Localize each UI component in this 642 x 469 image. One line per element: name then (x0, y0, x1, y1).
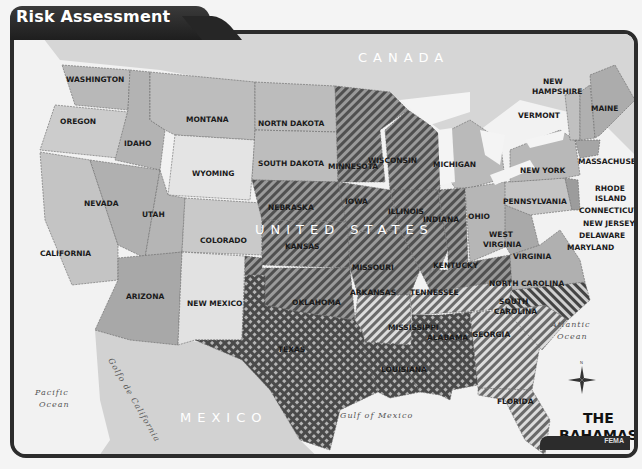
label-atlantic-2: Ocean (557, 332, 588, 341)
label-iowa: IOWA (345, 197, 368, 206)
label-south-carolina-2: CAROLINA (494, 307, 537, 316)
source-label: FEMA (604, 437, 624, 444)
label-connecticut: CONNECTICUT (579, 206, 638, 215)
label-nebraska: NEBRASKA (268, 203, 314, 212)
label-nevada: NEVADA (84, 199, 119, 208)
label-canada: CANADA (358, 50, 449, 65)
state-nebraska[interactable] (252, 180, 348, 222)
label-montana: MONTANA (186, 115, 229, 124)
label-kentucky: KENTUCKY (433, 261, 479, 270)
label-west-virginia-1: WEST (489, 230, 514, 239)
label-delaware: DELAWARE (579, 231, 625, 240)
label-gulf-of-mexico: Gulf of Mexico (340, 411, 413, 420)
label-atlantic-1: Atlantic (550, 320, 591, 329)
label-rhode-island-2: ISLAND (595, 194, 626, 203)
label-missouri: MISSOURI (352, 263, 394, 272)
label-vermont: VERMONT (518, 111, 561, 120)
label-michigan: MICHIGAN (433, 160, 476, 169)
label-new-jersey: NEW JERSEY (583, 219, 635, 228)
label-louisiana: LOUISIANA (381, 365, 427, 374)
label-georgia: GEORGIA (472, 330, 510, 339)
label-pennsylvania: PENNSYLVANIA (503, 197, 567, 206)
label-california: CALIFORNIA (40, 249, 91, 258)
label-virginia: VIRGINIA (513, 252, 551, 261)
label-north-dakota: NORTN DAKOTA (258, 119, 325, 128)
state-montana[interactable] (150, 72, 255, 140)
label-colorado: COLORADO (200, 236, 247, 245)
state-colorado[interactable] (182, 198, 262, 255)
label-north-carolina: NORTH CAROLINA (489, 279, 564, 288)
label-maryland: MARYLAND (567, 243, 614, 252)
label-arkansas: ARKANSAS (350, 288, 396, 297)
lake-michigan (438, 128, 455, 185)
label-oklahoma: OKLAHOMA (292, 298, 341, 307)
state-oregon[interactable] (40, 105, 128, 158)
label-indiana: INDIANA (423, 215, 459, 224)
label-arizona: ARIZONA (126, 292, 164, 301)
label-rhode-island-1: RHODE (595, 184, 625, 193)
us-risk-map: N CANADA UNITED STATES MEXICO THE BAHAMA… (10, 30, 638, 458)
source-tab: FEMA (540, 436, 630, 450)
label-new-mexico: NEW MEXICO (187, 299, 242, 308)
label-washington: WASHINGTON (66, 75, 124, 84)
label-kansas: KANSAS (285, 242, 320, 251)
label-new-hampshire-2: HAMPSHIRE (532, 87, 582, 96)
label-wyoming: WYOMING (192, 169, 235, 178)
label-new-hampshire-1: NEW (543, 77, 563, 86)
label-alabama: ALABAMA (427, 333, 468, 342)
map-frame: N CANADA UNITED STATES MEXICO THE BAHAMA… (10, 30, 638, 458)
label-tennessee: TENNESSEE (410, 288, 459, 297)
page-title: Risk Assessment (16, 7, 170, 26)
label-wisconsin: WISCONSIN (368, 156, 417, 165)
label-south-dakota: SOUTH DAKOTA (258, 159, 324, 168)
label-oregon: OREGON (60, 117, 96, 126)
label-ohio: OHIO (468, 212, 490, 221)
label-bahamas-1: THE (583, 410, 614, 426)
state-south-dakota[interactable] (252, 130, 338, 182)
label-united-states: UNITED STATES (255, 222, 434, 237)
label-mississippi: MISSISSIPPI (388, 323, 439, 332)
label-south-carolina-1: SOUTH (499, 297, 528, 306)
state-wyoming[interactable] (168, 135, 255, 200)
label-idaho: IDAHO (124, 139, 151, 148)
label-texas: TEXAS (278, 345, 305, 354)
label-mexico: MEXICO (180, 410, 267, 425)
label-west-virginia-2: VIRGINIA (483, 240, 521, 249)
label-maine: MAINE (591, 104, 618, 113)
label-florida: FLORIDA (497, 397, 534, 406)
label-utah: UTAH (142, 210, 165, 219)
label-pacific-1: Pacific (34, 388, 69, 397)
label-new-york: NEW YORK (520, 166, 567, 175)
label-pacific-2: Ocean (39, 400, 70, 409)
label-massachusetts: MASSACHUSETTS (578, 157, 638, 166)
label-illinois: ILLINOIS (388, 207, 424, 216)
svg-text:N: N (580, 360, 583, 365)
